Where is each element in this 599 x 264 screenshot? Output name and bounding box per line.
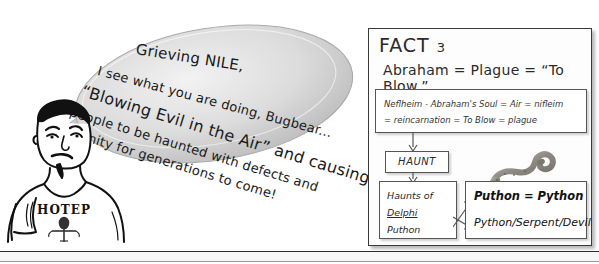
haunt-label: HAUNT	[386, 152, 448, 172]
page-canvas: Grieving NILE, I see what you are doing,…	[0, 0, 599, 264]
haunt-box: HAUNT	[385, 151, 449, 173]
cartoon-character: HOTEP	[2, 92, 128, 244]
haunts-of-delphi-box: Haunts of Delphi Puthon	[379, 181, 457, 239]
python-equation-box: Puthon = Python Python/Serpent/Devil	[465, 181, 587, 239]
soul-equation-line-1: Neflheim - Abraham's Soul = Air = niflei…	[384, 96, 578, 112]
soul-equation-line-2: = reincarnation = To Blow = plague	[384, 112, 578, 128]
fact-panel-title: FACT 3	[379, 34, 446, 56]
fact-title-number: 3	[437, 40, 446, 55]
soul-equation-box: Neflheim - Abraham's Soul = Air = niflei…	[375, 89, 587, 133]
python-line-2: Python/Serpent/Devil	[474, 215, 586, 231]
character-drawing: HOTEP	[2, 92, 128, 244]
arrow-soul-to-haunt	[403, 133, 423, 153]
fact-panel: FACT 3 Abraham = Plague = “To Blow.” Nef…	[368, 28, 592, 246]
fact-title-word: FACT	[379, 34, 430, 56]
haunts-line-1: Haunts of	[387, 187, 456, 204]
haunts-line-3: Puthon	[387, 221, 456, 238]
haunts-line-2: Delphi	[387, 204, 456, 221]
bottom-divider-bar	[0, 251, 599, 262]
python-line-1: Puthon = Python	[474, 188, 586, 204]
ankh-icon	[49, 218, 80, 243]
shirt-text: HOTEP	[37, 203, 91, 217]
